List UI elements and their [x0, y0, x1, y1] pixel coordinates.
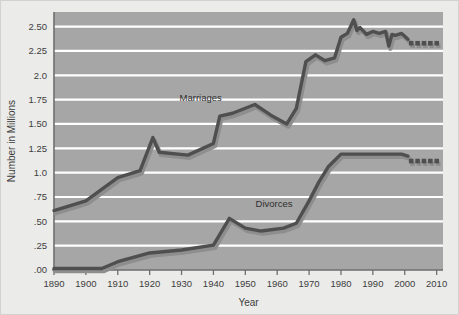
y-tick-label: .50	[34, 216, 47, 227]
series-label-divorces: Divorces	[256, 198, 293, 209]
x-tick-label: 1960	[267, 278, 288, 289]
projection-marker	[415, 159, 420, 164]
projection-marker	[409, 41, 414, 46]
projection-marker	[428, 159, 433, 164]
y-tick-label: .25	[34, 240, 47, 251]
x-tick-label: 1990	[362, 278, 383, 289]
x-tick-label: 1900	[75, 278, 96, 289]
x-tick-label: 1980	[330, 278, 351, 289]
y-tick-label: 1.25	[29, 143, 48, 154]
chart-figure: .00.25.50.751.01.251.501.752.02.252.5018…	[0, 0, 459, 315]
y-tick-label: 1.0	[34, 167, 47, 178]
y-tick-label: .75	[34, 191, 47, 202]
projection-marker	[428, 41, 433, 46]
projection-marker	[409, 159, 414, 164]
x-tick-label: 1920	[139, 278, 160, 289]
projection-marker	[422, 41, 427, 46]
projection-marker	[434, 41, 439, 46]
x-tick-label: 1890	[43, 278, 64, 289]
y-tick-label: 1.50	[29, 118, 48, 129]
x-tick-label: 1930	[171, 278, 192, 289]
x-tick-label: 1970	[299, 278, 320, 289]
marriages-divorces-line-chart: .00.25.50.751.01.251.501.752.02.252.5018…	[0, 0, 459, 315]
projection-marker	[422, 159, 427, 164]
y-axis-title: Number in Millions	[6, 100, 17, 182]
y-tick-label: 1.75	[29, 94, 48, 105]
x-tick-label: 1940	[203, 278, 224, 289]
y-axis-tick-labels: .00.25.50.751.01.251.501.752.02.252.50	[29, 21, 48, 275]
x-tick-label: 1910	[107, 278, 128, 289]
x-tick-label: 2010	[426, 278, 447, 289]
x-axis-title: Year	[238, 297, 259, 308]
y-tick-label: .00	[34, 264, 47, 275]
y-tick-label: 2.25	[29, 45, 48, 56]
x-tick-label: 1950	[235, 278, 256, 289]
y-tick-label: 2.0	[34, 70, 47, 81]
x-tick-label: 2000	[394, 278, 415, 289]
projection-marker	[415, 41, 420, 46]
projection-marker	[434, 159, 439, 164]
series-label-marriages: Marriages	[180, 92, 222, 103]
y-tick-label: 2.50	[29, 21, 48, 32]
